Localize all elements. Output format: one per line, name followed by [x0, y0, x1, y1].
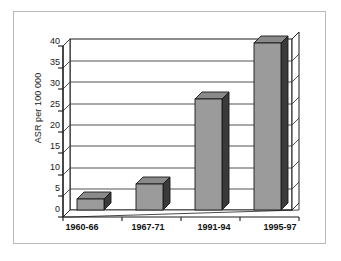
bar-1995-97[interactable] — [254, 36, 288, 210]
bar-front-face — [77, 199, 104, 210]
bar-chart: ASR per 100 000 0 5 10 15 20 25 30 35 40… — [0, 0, 341, 261]
bar-side-face — [222, 92, 229, 210]
bar-1967-71[interactable] — [136, 177, 170, 210]
bar-front-face — [195, 99, 222, 210]
bar-1991-94[interactable] — [195, 92, 229, 210]
y-axis-ticks — [58, 46, 63, 217]
bar-1960-66[interactable] — [77, 192, 111, 210]
bar-front-face — [136, 184, 163, 210]
bar-front-face — [254, 43, 281, 210]
x-axis-ticks — [63, 217, 299, 221]
figure-root: ASR per 100 000 0 5 10 15 20 25 30 35 40… — [0, 0, 341, 261]
plot-area — [0, 0, 341, 261]
bar-side-face — [281, 36, 288, 210]
